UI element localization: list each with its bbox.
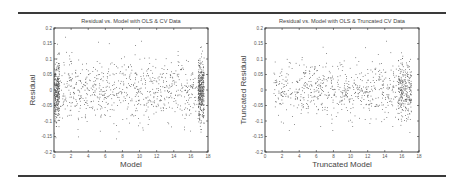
x-tick-label: 2 — [70, 154, 73, 159]
x-tick-label: 18 — [416, 154, 422, 159]
y-tick-label: 0.05 — [254, 72, 263, 77]
y-tick-label: 0.1 — [257, 57, 264, 62]
x-tick-label: 4 — [298, 154, 301, 159]
y-tick-label: -0.15 — [42, 134, 53, 139]
x-tick-label: 6 — [104, 154, 107, 159]
x-axis-label: Truncated Model — [312, 160, 372, 169]
x-tick-label: 16 — [188, 154, 194, 159]
y-axis-label: Residual — [28, 74, 37, 105]
y-tick-label: -0.05 — [253, 103, 264, 108]
x-axis-label: Model — [120, 160, 142, 169]
x-tick-label: 0 — [264, 154, 267, 159]
y-tick-label: 0.2 — [257, 26, 264, 31]
y-tick-label: -0.15 — [253, 134, 264, 139]
x-tick-label: 2 — [281, 154, 284, 159]
chart-title: Residual vs. Model with OLS & Truncated … — [279, 18, 406, 24]
y-tick-label: -0.1 — [44, 119, 52, 124]
y-tick-label: 0.05 — [43, 72, 52, 77]
chart-right: Residual vs. Model with OLS & Truncated … — [231, 0, 463, 184]
scatter-points — [54, 37, 205, 140]
x-tick-label: 14 — [171, 154, 177, 159]
chart-title: Residual vs. Model with OLS & CV Data — [81, 18, 181, 24]
y-tick-label: 0.15 — [254, 41, 263, 46]
y-tick-label: 0.2 — [46, 26, 53, 31]
x-tick-label: 8 — [332, 154, 335, 159]
x-tick-label: 12 — [154, 154, 160, 159]
x-tick-label: 0 — [53, 154, 56, 159]
x-tick-label: 10 — [137, 154, 143, 159]
y-tick-label: 0 — [260, 88, 263, 93]
y-tick-label: 0 — [49, 88, 52, 93]
y-tick-label: -0.05 — [42, 103, 53, 108]
chart-left: Residual vs. Model with OLS & CV Data024… — [0, 0, 232, 184]
x-tick-label: 16 — [399, 154, 405, 159]
x-tick-label: 4 — [87, 154, 90, 159]
x-tick-label: 6 — [315, 154, 318, 159]
scatter-points — [274, 41, 412, 133]
y-tick-label: 0.15 — [43, 41, 52, 46]
x-tick-label: 10 — [348, 154, 354, 159]
y-tick-label: -0.2 — [255, 150, 263, 155]
x-tick-label: 12 — [365, 154, 371, 159]
y-tick-label: 0.1 — [46, 57, 53, 62]
y-axis-label: Truncated Residual — [239, 55, 248, 124]
x-tick-label: 18 — [205, 154, 211, 159]
y-tick-label: -0.2 — [44, 150, 52, 155]
y-tick-label: -0.1 — [255, 119, 263, 124]
x-tick-label: 8 — [121, 154, 124, 159]
x-tick-label: 14 — [382, 154, 388, 159]
